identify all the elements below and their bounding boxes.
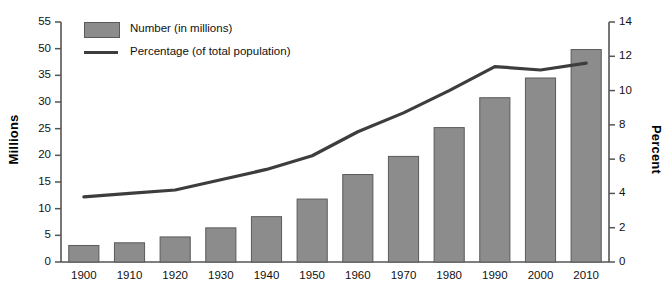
- bar: [297, 199, 327, 262]
- plot-area: [0, 0, 668, 296]
- y-axis-left-tick-label: 25: [25, 122, 51, 134]
- bar: [251, 217, 281, 262]
- y-axis-right-tick-label: 2: [619, 221, 645, 233]
- x-axis-tick-label: 1940: [244, 269, 290, 281]
- y-axis-right-tick-label: 14: [619, 15, 645, 27]
- x-axis-tick-label: 1990: [472, 269, 518, 281]
- y-axis-left-tick-label: 5: [25, 228, 51, 240]
- bar: [160, 237, 190, 262]
- legend-label-number: Number (in millions): [130, 22, 232, 34]
- x-axis-tick-label: 1930: [198, 269, 244, 281]
- y-axis-right-tick-label: 10: [619, 84, 645, 96]
- y-axis-left-tick-label: 0: [25, 255, 51, 267]
- legend-label-percentage: Percentage (of total population): [130, 45, 290, 57]
- y-axis-left-tick-label: 15: [25, 175, 51, 187]
- y-axis-left-title: Millions: [6, 100, 21, 180]
- bar: [388, 156, 418, 262]
- bar: [343, 175, 373, 262]
- bar: [434, 128, 464, 262]
- bar-series: [69, 50, 601, 262]
- y-axis-left-tick-label: 20: [25, 148, 51, 160]
- bar: [571, 50, 601, 262]
- bar: [480, 98, 510, 262]
- y-axis-right-tick-label: 0: [619, 255, 645, 267]
- line-series: [84, 63, 586, 197]
- x-axis-tick-label: 1970: [381, 269, 427, 281]
- x-axis-tick-label: 1980: [426, 269, 472, 281]
- x-axis-tick-label: 2000: [518, 269, 564, 281]
- y-axis-right-tick-label: 4: [619, 186, 645, 198]
- x-axis-tick-label: 1950: [289, 269, 335, 281]
- y-axis-right-title: Percent: [649, 110, 664, 190]
- y-axis-right-tick-label: 12: [619, 49, 645, 61]
- x-axis-tick-label: 1900: [61, 269, 107, 281]
- percentage-line: [84, 63, 586, 197]
- bar: [114, 243, 144, 262]
- x-axis-tick-label: 1960: [335, 269, 381, 281]
- y-axis-right-tick-label: 6: [619, 152, 645, 164]
- y-axis-left-tick-label: 55: [25, 15, 51, 27]
- y-axis-left-tick-label: 50: [25, 42, 51, 54]
- chart-container: Millions Percent 05101520253035505502468…: [0, 0, 668, 296]
- x-axis-tick-label: 2010: [563, 269, 609, 281]
- legend-swatch-number: [84, 22, 120, 38]
- bar: [525, 78, 555, 262]
- x-axis-tick-label: 1920: [152, 269, 198, 281]
- legend-line-percentage: [84, 51, 118, 54]
- bar: [69, 245, 99, 262]
- bar: [206, 228, 236, 262]
- y-axis-left-tick-label: 30: [25, 95, 51, 107]
- y-axis-left-tick-label: 35: [25, 68, 51, 80]
- y-axis-left-tick-label: 10: [25, 202, 51, 214]
- x-axis-tick-label: 1910: [107, 269, 153, 281]
- y-axis-right-tick-label: 8: [619, 118, 645, 130]
